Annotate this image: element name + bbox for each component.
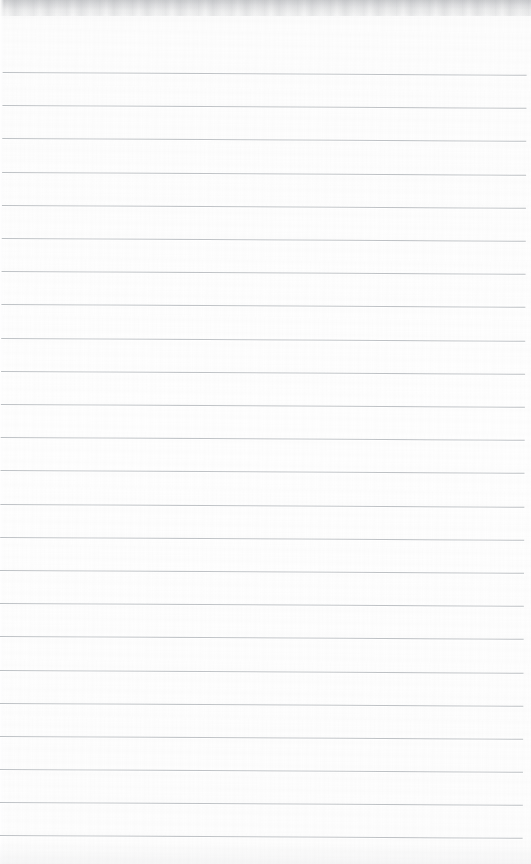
writing-row[interactable] [4,672,526,702]
writing-row[interactable] [4,439,526,469]
writing-row[interactable] [4,41,526,71]
writing-row[interactable] [4,140,526,171]
writing-row[interactable] [4,340,526,370]
writing-row[interactable] [4,638,526,669]
writing-row[interactable] [4,107,526,137]
writing-row[interactable] [4,273,526,303]
writing-row[interactable] [4,572,526,602]
writing-row[interactable] [4,539,526,569]
writing-row[interactable] [4,240,526,270]
writing-row[interactable] [4,804,526,834]
writing-row[interactable] [4,771,526,801]
writing-row[interactable] [4,406,526,436]
writing-row[interactable] [4,605,526,635]
writing-row[interactable] [4,705,526,735]
writing-row[interactable] [4,306,526,337]
writing-row[interactable] [4,174,526,204]
writing-row[interactable] [4,373,526,403]
scanned-page [0,0,531,864]
ruled-line [0,835,523,839]
writing-row[interactable] [4,207,526,237]
writing-row[interactable] [4,738,526,768]
writing-row[interactable] [4,74,526,104]
writing-row[interactable] [4,472,526,503]
writing-row[interactable] [4,506,526,536]
